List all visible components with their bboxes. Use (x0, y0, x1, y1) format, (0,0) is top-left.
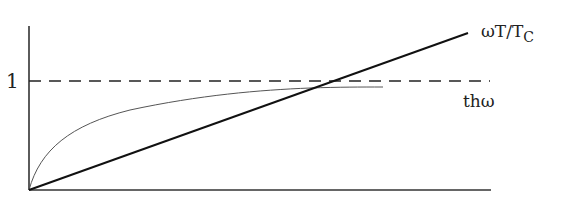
tanh-curve-label: thω (463, 91, 495, 111)
y-tick-label-one: 1 (6, 69, 19, 93)
linear-line (29, 33, 468, 190)
tanh-curve (29, 87, 383, 190)
diagram-canvas: 1 ωT/TC thω (0, 0, 562, 201)
linear-line-label-subscript: C (523, 29, 534, 45)
linear-line-label: ωT/TC (481, 21, 534, 45)
linear-line-label-main: ωT/T (481, 21, 524, 41)
